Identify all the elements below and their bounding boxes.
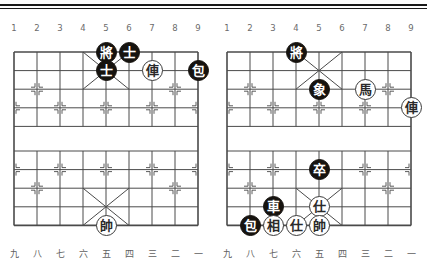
file-label-top-7: 7 — [362, 22, 367, 34]
red-chariot[interactable]: 俥 — [401, 97, 422, 118]
file-label-bottom-五: 五 — [102, 248, 111, 260]
file-label-top-3: 3 — [57, 22, 62, 34]
piece-glyph: 士 — [123, 45, 136, 58]
file-label-top-6: 6 — [126, 22, 131, 34]
piece-glyph: 車 — [267, 200, 280, 213]
file-label-bottom-七: 七 — [56, 248, 65, 260]
file-label-bottom-一: 一 — [407, 248, 416, 260]
file-label-bottom-八: 八 — [33, 248, 42, 260]
file-label-top-2: 2 — [34, 22, 39, 34]
file-label-bottom-三: 三 — [148, 248, 157, 260]
piece-glyph: 士 — [100, 64, 113, 77]
left-board-file-labels-bottom: 九八七六五四三二一 — [0, 248, 213, 262]
file-label-top-3: 3 — [270, 22, 275, 34]
file-label-top-4: 4 — [80, 22, 85, 34]
file-label-top-2: 2 — [247, 22, 252, 34]
right-board[interactable]: 123456789 九八七六五四三二一 將象馬俥卒車仕包相仕帥 — [213, 0, 426, 275]
file-label-bottom-六: 六 — [292, 248, 301, 260]
piece-glyph: 包 — [192, 64, 205, 77]
file-label-bottom-九: 九 — [10, 248, 19, 260]
red-general[interactable]: 帥 — [96, 215, 117, 236]
black-general[interactable]: 將 — [286, 42, 307, 63]
red-advisor-2[interactable]: 仕 — [286, 215, 307, 236]
piece-glyph: 仕 — [290, 218, 303, 231]
file-label-top-8: 8 — [385, 22, 390, 34]
file-label-top-4: 4 — [293, 22, 298, 34]
right-board-file-labels-bottom: 九八七六五四三二一 — [213, 248, 426, 262]
black-elephant[interactable]: 象 — [309, 79, 330, 100]
file-label-top-5: 5 — [103, 22, 108, 34]
file-label-bottom-八: 八 — [246, 248, 255, 260]
piece-glyph: 將 — [100, 45, 113, 58]
file-label-top-9: 9 — [195, 22, 200, 34]
piece-glyph: 俥 — [405, 101, 418, 114]
file-label-bottom-四: 四 — [125, 248, 134, 260]
black-cannon[interactable]: 包 — [240, 215, 261, 236]
file-label-top-9: 9 — [408, 22, 413, 34]
file-label-bottom-七: 七 — [269, 248, 278, 260]
file-label-bottom-九: 九 — [223, 248, 232, 260]
piece-glyph: 象 — [313, 82, 326, 95]
right-board-file-labels-top: 123456789 — [213, 22, 426, 36]
black-pawn[interactable]: 卒 — [309, 159, 330, 180]
piece-glyph: 俥 — [146, 64, 159, 77]
file-label-top-1: 1 — [224, 22, 229, 34]
red-horse[interactable]: 馬 — [355, 79, 376, 100]
file-label-top-6: 6 — [339, 22, 344, 34]
black-advisor-2[interactable]: 士 — [96, 60, 117, 81]
file-label-bottom-四: 四 — [338, 248, 347, 260]
piece-glyph: 卒 — [313, 163, 326, 176]
red-general[interactable]: 帥 — [309, 215, 330, 236]
piece-glyph: 帥 — [100, 218, 113, 231]
piece-glyph: 馬 — [359, 82, 372, 95]
file-label-top-7: 7 — [149, 22, 154, 34]
file-label-top-8: 8 — [172, 22, 177, 34]
file-label-bottom-五: 五 — [315, 248, 324, 260]
diagram-page: 123456789 九八七六五四三二一 將士士俥包帥 123456789 九八七… — [0, 0, 427, 275]
black-cannon[interactable]: 包 — [188, 60, 209, 81]
file-label-bottom-二: 二 — [171, 248, 180, 260]
piece-glyph: 帥 — [313, 218, 326, 231]
file-label-top-5: 5 — [316, 22, 321, 34]
black-advisor-1[interactable]: 士 — [119, 42, 140, 63]
file-label-top-1: 1 — [11, 22, 16, 34]
red-minister[interactable]: 相 — [263, 215, 284, 236]
piece-glyph: 包 — [244, 218, 257, 231]
file-label-bottom-一: 一 — [194, 248, 203, 260]
piece-glyph: 相 — [267, 218, 280, 231]
piece-glyph: 將 — [290, 45, 303, 58]
red-chariot[interactable]: 俥 — [142, 60, 163, 81]
file-label-bottom-六: 六 — [79, 248, 88, 260]
file-label-bottom-三: 三 — [361, 248, 370, 260]
file-label-bottom-二: 二 — [384, 248, 393, 260]
left-board[interactable]: 123456789 九八七六五四三二一 將士士俥包帥 — [0, 0, 213, 275]
left-board-file-labels-top: 123456789 — [0, 22, 213, 36]
piece-glyph: 仕 — [313, 200, 326, 213]
